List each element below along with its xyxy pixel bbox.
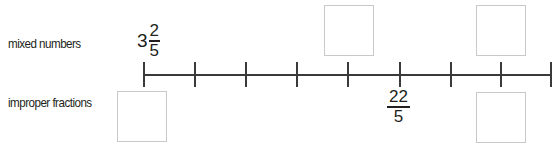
tick-mark-1 bbox=[194, 62, 196, 87]
tick-mark-4 bbox=[347, 62, 349, 87]
mixed-number-answer-box-tick-7[interactable] bbox=[476, 5, 526, 56]
improper-fractions-label: improper fractions bbox=[8, 95, 92, 110]
denominator: 5 bbox=[149, 44, 160, 58]
fraction: 22 5 bbox=[387, 90, 410, 124]
fraction: 2 5 bbox=[149, 24, 160, 58]
given-improper-fraction: 22 5 bbox=[387, 90, 410, 124]
numerator: 22 bbox=[387, 90, 410, 104]
numerator: 2 bbox=[149, 24, 160, 38]
tick-mark-2 bbox=[245, 62, 247, 87]
tick-mark-3 bbox=[296, 62, 298, 87]
mixed-numbers-label: mixed numbers bbox=[8, 36, 81, 51]
given-mixed-number: 3 2 5 bbox=[137, 24, 160, 58]
denominator: 5 bbox=[392, 110, 405, 124]
tick-mark-8 bbox=[550, 62, 552, 87]
improper-fraction-answer-box-tick-0[interactable] bbox=[117, 91, 167, 142]
improper-fraction-answer-box-tick-7[interactable] bbox=[476, 92, 526, 143]
mixed-number-answer-box-tick-4[interactable] bbox=[324, 5, 374, 56]
tick-mark-7 bbox=[500, 62, 502, 87]
whole-part: 3 bbox=[137, 31, 148, 50]
tick-mark-0 bbox=[143, 62, 145, 87]
tick-mark-5 bbox=[399, 62, 401, 87]
tick-mark-6 bbox=[450, 62, 452, 87]
